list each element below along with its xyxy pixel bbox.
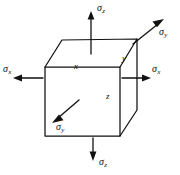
arrow-sigma-x-left (13, 75, 43, 82)
label-sigma-z-top: σz (97, 3, 105, 15)
axis-label-y: y (122, 54, 126, 63)
arrow-sigma-z-up (88, 11, 95, 54)
label-sigma-y-lower-left: σy (56, 122, 64, 134)
arrow-sigma-z-down (90, 138, 97, 161)
axis-label-x: x (74, 62, 78, 71)
axis-label-z: z (106, 92, 110, 101)
figure-canvas: σz σz σx σx σy σy x y z (0, 0, 180, 175)
label-sigma-y-upper-right: σy (159, 27, 167, 39)
label-sigma-z-bottom: σz (99, 157, 107, 169)
label-sigma-x-right: σx (152, 64, 160, 76)
stress-cube-diagram (0, 0, 180, 175)
label-sigma-x-left: σx (3, 64, 11, 76)
arrow-sigma-y-down-left (52, 100, 79, 123)
